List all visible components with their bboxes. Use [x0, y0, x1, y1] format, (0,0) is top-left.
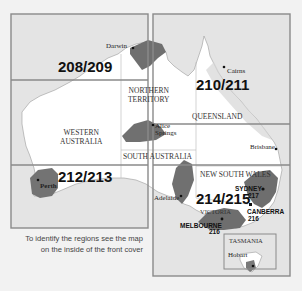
state-label-new-south-wales: NEW SOUTH WALES — [200, 170, 271, 179]
city-label-sydney-page[interactable]: 217 — [248, 192, 259, 199]
city-label-melbourne-page[interactable]: 216 — [209, 228, 220, 235]
caption-line-2: on the inside of the front cover — [12, 244, 143, 255]
city-label-darwin: Darwin — [106, 42, 127, 50]
city-label-cairns: Cairns — [227, 67, 245, 75]
state-label-queensland: QUEENSLAND — [192, 112, 242, 121]
state-label-tasmania: TASMANIA — [229, 236, 263, 245]
state-label-northern-territory: NORTHERN TERRITORY — [128, 86, 170, 104]
city-label-brisbane: Brisbane — [250, 143, 275, 151]
city-label-alice-line2: Springs — [155, 130, 176, 137]
map-figure: 208/209 210/211 212/213 214/215 NORTHERN… — [0, 0, 302, 291]
page-region-214-215[interactable]: 214/215 — [196, 190, 250, 207]
page-region-212-213[interactable]: 212/213 — [58, 168, 112, 185]
city-label-sydney: SYDNEY — [235, 185, 262, 192]
map-caption: To identify the regions see the map on t… — [12, 233, 143, 255]
state-label-western-australia: WESTERN AUSTRALIA — [60, 128, 103, 146]
caption-line-1: To identify the regions see the map — [12, 233, 143, 244]
city-label-adelaide: Adelaide — [154, 194, 179, 202]
state-label-nt-line1: NORTHERN — [128, 86, 170, 95]
state-label-victoria: VICTORIA — [200, 207, 231, 216]
page-region-210-211[interactable]: 210/211 — [196, 76, 249, 93]
state-label-nt-line2: TERRITORY — [128, 95, 170, 104]
city-label-alice-springs: Alice Springs — [155, 123, 176, 137]
city-label-perth: Perth — [40, 182, 57, 190]
city-label-hobart: Hobart — [228, 251, 247, 259]
city-label-canberra: CANBERRA — [247, 208, 284, 215]
state-label-wa-line1: WESTERN — [60, 128, 103, 137]
state-label-south-australia: SOUTH AUSTRALIA — [123, 152, 192, 161]
city-label-canberra-page[interactable]: 216 — [248, 215, 259, 222]
state-label-wa-line2: AUSTRALIA — [60, 137, 103, 146]
page-region-208-209[interactable]: 208/209 — [58, 58, 112, 75]
